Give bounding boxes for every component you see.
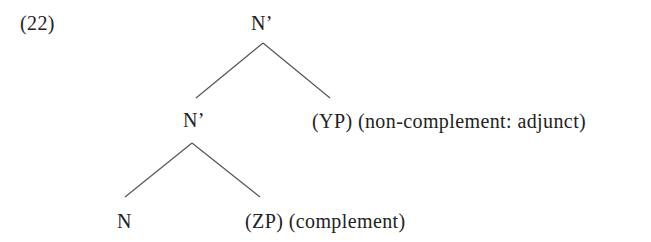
edge-root-to-adjunct [263,43,330,98]
node-adjunct: (YP) (non-complement: adjunct) [312,110,586,132]
node-intermediate: N’ [183,109,205,131]
node-root: N’ [251,12,273,34]
edge-intermediate-to-complement [192,143,260,197]
node-complement: (ZP) (complement) [245,210,406,232]
node-head: N [117,210,132,232]
edge-intermediate-to-head [125,143,192,197]
edge-root-to-intermediate [196,43,263,98]
